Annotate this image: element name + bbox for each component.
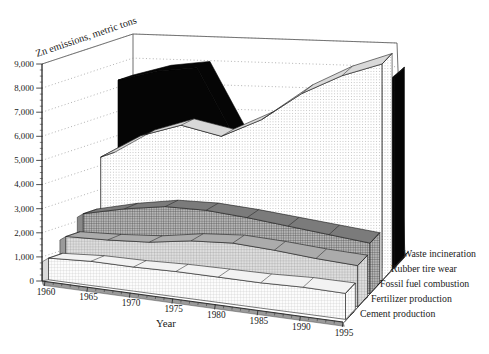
y-axis-title: Zn emissions, metric tons xyxy=(34,14,138,59)
legend-rubber-tire-wear: Rubber tire wear xyxy=(391,263,458,274)
right-end-face xyxy=(382,54,392,281)
y-tick-label-0: 0 xyxy=(30,276,35,286)
legend-cement-production: Cement production xyxy=(360,308,435,319)
y-tick-label-4,000: 4,000 xyxy=(14,179,34,189)
y-tick-label-2,000: 2,000 xyxy=(14,228,34,238)
legend-fossil-fuel-combustion: Fossil fuel combustion xyxy=(380,278,469,289)
x-tick-label-1965: 1965 xyxy=(79,292,98,302)
x-tick-label-1975: 1975 xyxy=(164,304,183,314)
y-tick-label-7,000: 7,000 xyxy=(14,107,34,117)
x-tick-label-1970: 1970 xyxy=(122,298,141,308)
right-end-face xyxy=(395,67,405,268)
left-end-face xyxy=(43,258,49,281)
y-tick-label-1,000: 1,000 xyxy=(14,252,34,262)
legend-fertilizer-production: Fertilizer production xyxy=(371,293,452,304)
x-tick-label-1980: 1980 xyxy=(207,310,226,320)
x-tick-label-1990: 1990 xyxy=(292,322,311,332)
legend-waste-incineration: Waste incineration xyxy=(403,248,476,259)
y-tick-label-3,000: 3,000 xyxy=(14,204,34,214)
y-tick-label-9,000: 9,000 xyxy=(14,59,34,69)
y-tick-label-5,000: 5,000 xyxy=(14,155,34,165)
x-tick-label-1960: 1960 xyxy=(37,287,56,297)
chart-canvas: 01,0002,0003,0004,0005,0006,0007,0008,00… xyxy=(0,0,489,354)
y-tick-label-6,000: 6,000 xyxy=(14,131,34,141)
y-tick-label-8,000: 8,000 xyxy=(14,83,34,93)
zn-emissions-3d-chart: 01,0002,0003,0004,0005,0006,0007,0008,00… xyxy=(0,0,489,354)
x-tick-label-1985: 1985 xyxy=(250,316,269,326)
x-tick-label-1995: 1995 xyxy=(335,328,354,338)
series-ribbons xyxy=(43,54,405,320)
x-axis-title: Year xyxy=(156,317,176,329)
